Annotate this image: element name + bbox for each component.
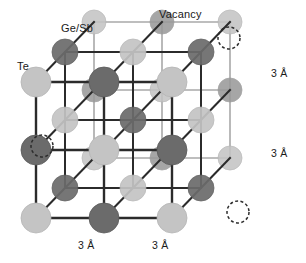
atom-te <box>157 67 187 97</box>
label-dimension-bottom-left: 3 Å <box>78 240 94 251</box>
atom-ge-sb <box>188 39 214 65</box>
crystal-lattice-figure: Ge/Sb Te Vacancy 3 Å 3 Å 3 Å 3 Å <box>0 0 306 263</box>
atom-ge-sb <box>89 67 119 97</box>
label-dimension-right-bottom: 3 Å <box>271 148 287 159</box>
label-ge-sb: Ge/Sb <box>61 23 93 34</box>
label-dimension-bottom-right: 3 Å <box>152 240 168 251</box>
atom-ge-sb <box>157 135 187 165</box>
lattice-svg <box>0 0 306 263</box>
atom-te <box>52 107 78 133</box>
vacancy-circle-icon <box>227 201 249 223</box>
label-dimension-right-top: 3 Å <box>271 68 287 79</box>
atom-te <box>21 203 51 233</box>
atom-ge-sb <box>52 175 78 201</box>
label-te: Te <box>17 61 29 72</box>
atom-group-front <box>21 67 187 233</box>
label-vacancy: Vacancy <box>159 9 202 20</box>
atom-ge-sb <box>89 203 119 233</box>
atom-ge-sb <box>120 107 146 133</box>
atom-ge-sb <box>188 175 214 201</box>
atom-te <box>89 135 119 165</box>
atom-ge-sb <box>21 135 51 165</box>
atom-te <box>157 203 187 233</box>
atom-ge-sb <box>52 39 78 65</box>
atom-te <box>120 175 146 201</box>
atom-te <box>188 107 214 133</box>
atom-te <box>120 39 146 65</box>
